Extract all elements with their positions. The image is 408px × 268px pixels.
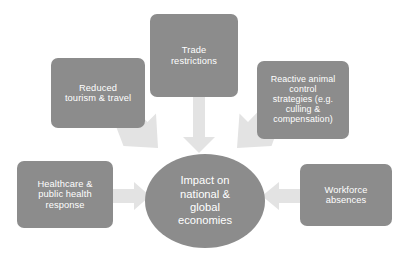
diagram-canvas: Trade restrictions Reduced tourism & tra… <box>0 0 408 268</box>
arrow-trade-to-hub <box>183 97 215 153</box>
node-reactive-animal-control-strategies[interactable]: Reactive animal control strategies (e.g.… <box>257 61 349 139</box>
node-workforce-absences[interactable]: Workforce absences <box>300 164 392 226</box>
arrow-workforce-to-hub <box>262 182 300 210</box>
node-reduced-tourism-travel[interactable]: Reduced tourism & travel <box>51 58 145 128</box>
node-trade-restrictions[interactable]: Trade restrictions <box>150 14 238 97</box>
hub-impact-on-economies[interactable]: Impact on national & global economies <box>145 154 265 248</box>
node-healthcare-public-health-response[interactable]: Healthcare & public health response <box>17 161 113 228</box>
